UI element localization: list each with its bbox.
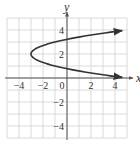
x-tick-label: 4 — [113, 80, 118, 91]
y-tick-label: −4 — [53, 121, 64, 132]
y-axis-label: y — [63, 0, 70, 14]
x-tick-label: 0 — [60, 80, 65, 91]
x-axis-label: x — [135, 71, 140, 85]
x-tick-label: −2 — [38, 80, 49, 91]
parabola-plot: −4−202442−2−4xy — [0, 0, 140, 142]
y-tick-label: −2 — [53, 97, 64, 108]
y-tick-label: 4 — [59, 25, 64, 36]
x-tick-label: 2 — [89, 80, 94, 91]
x-tick-label: −4 — [14, 80, 25, 91]
y-tick-label: 2 — [59, 49, 64, 60]
